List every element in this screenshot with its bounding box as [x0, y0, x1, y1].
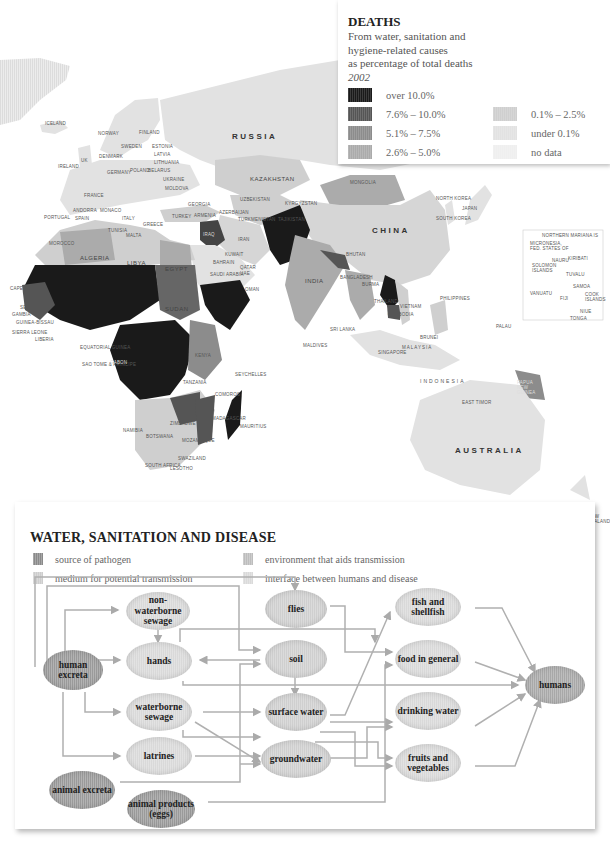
label-maldives: MALDIVES	[303, 343, 327, 348]
label-armenia: ARMENIA	[194, 213, 216, 218]
label-burma: BURMA	[362, 282, 379, 287]
water-sanitation-diagram: WATER, SANITATION AND DISEASE source of …	[15, 502, 595, 829]
legend-year: 2002	[348, 71, 548, 85]
legend-item-under-0-1: under 0.1%	[493, 126, 579, 140]
label-sudan: SUDAN	[165, 306, 189, 312]
label-georgia: GEORGIA	[188, 202, 210, 207]
legend-item-2-5: 2.6% – 5.0%	[348, 145, 440, 159]
label-saudi-arabia: SAUDI ARABIA	[210, 272, 244, 277]
label-tanzania: TANZANIA	[183, 380, 207, 385]
label-belarus: BELARUS	[148, 168, 170, 173]
legend-label: 7.6% – 10.0%	[386, 109, 446, 120]
inset-label: MICRONESIA, FED. STATES OF	[530, 241, 570, 251]
inset-label: FIJI	[560, 296, 568, 301]
label-uzbekistan: UZBEKISTAN	[240, 197, 270, 202]
label-kenya: KENYA	[195, 353, 211, 358]
label-east-timor: EAST TIMOR	[462, 400, 491, 405]
node-human-excreta: human excreta	[43, 650, 103, 690]
label-north-korea: NORTH KOREA	[436, 196, 471, 201]
label-russia: RUSSIA	[232, 132, 277, 141]
label-denmark: DENMARK	[99, 154, 123, 159]
inset-label: SAMOA	[573, 284, 590, 289]
node-flies: flies	[265, 590, 327, 628]
legend-item-0-2: 0.1% – 2.5%	[493, 107, 585, 121]
label-iceland: ICELAND	[45, 121, 66, 126]
label-cape-verde: CAPE VERDE	[10, 286, 41, 291]
legend-item-no-data: no data	[493, 145, 562, 159]
label-turkey: TURKEY	[172, 214, 191, 219]
label-italy: ITALY	[122, 216, 135, 221]
label-japan: JAPAN	[462, 206, 477, 211]
label-zimbabwe: ZIMBABWE	[170, 421, 196, 426]
legend-label: over 10.0%	[386, 90, 434, 101]
label-swaziland: SWAZILAND	[178, 456, 206, 461]
label-libya: LIBYA	[127, 260, 146, 266]
label-kyrgyzstan: KYRGYZSTAN	[285, 201, 317, 206]
label-iran: IRAN	[238, 237, 250, 242]
node-waterborne-sewage: waterborne sewage	[126, 693, 192, 731]
legend-swatch	[348, 88, 372, 102]
label-lithuania: LITHUANIA	[154, 160, 179, 165]
node-fruits-vegetables: fruits and vegetables	[395, 744, 461, 782]
legend-subtitle-line: From water, sanitation and	[348, 30, 548, 44]
label-gambia: GAMBIA	[12, 312, 31, 317]
label-qatar: QATAR	[240, 265, 256, 270]
node-drinking-water: drinking water	[395, 692, 461, 730]
label-south-korea: SOUTH KOREA	[436, 216, 471, 221]
inset-label: KIRIBATI	[568, 256, 588, 261]
legend-swatch	[348, 145, 372, 159]
label-ireland: IRELAND	[58, 164, 79, 169]
label-bhutan: BHUTAN	[346, 252, 365, 257]
label-france: FRANCE	[84, 193, 104, 198]
label-sri-lanka: SRI LANKA	[330, 327, 355, 332]
legend-label: no data	[531, 147, 562, 158]
label-cambodia: CAMBODIA	[388, 312, 414, 317]
legend-item-5-7: 5.1% – 7.5%	[348, 126, 440, 140]
node-non-waterborne-sewage: non-waterborne sewage	[126, 592, 190, 630]
legend-title: DEATHS	[348, 14, 401, 30]
legend-swatch	[493, 126, 517, 140]
label-kuwait: KUWAIT	[225, 252, 244, 257]
label-papua-new-guinea: PAPUA NEW GUINEA	[517, 380, 539, 395]
label-iraq: IRAQ	[203, 232, 215, 237]
label-andorra: ANDORRA	[73, 208, 97, 213]
legend-label: 5.1% – 7.5%	[386, 128, 440, 139]
inset-label: TUVALU	[566, 272, 585, 277]
label-sierra-leone: SIERRA LEONE	[12, 330, 47, 335]
label-azerbaijan: AZERBAIJAN	[219, 210, 249, 215]
legend-item-7-10: 7.6% – 10.0%	[348, 107, 446, 121]
node-food-general: food in general	[395, 640, 461, 678]
label-palau: PALAU	[496, 324, 511, 329]
legend-subtitle: From water, sanitation and hygiene-relat…	[348, 30, 548, 84]
label-uae: UAE	[240, 271, 250, 276]
label-greece: GREECE	[143, 222, 163, 227]
node-animal-excreta: animal excreta	[49, 771, 115, 809]
label-mongolia: MONGOLIA	[350, 180, 376, 185]
label-mauritius: MAURITIUS	[240, 424, 267, 429]
label-madagascar: MADAGASCAR	[212, 416, 246, 421]
label-seychelles: SEYCHELLES	[235, 372, 267, 377]
label-vietnam: VIETNAM	[400, 304, 421, 309]
inset-label: NORTHERN MARIANA IS	[542, 233, 598, 238]
legend-subtitle-line: as percentage of total deaths	[348, 57, 548, 71]
label-senegal: SENEGAL	[20, 305, 43, 310]
node-humans: humans	[525, 666, 585, 704]
label-moldova: MOLDOVA	[165, 186, 189, 191]
label-poland: POLAND	[130, 168, 150, 173]
node-groundwater: groundwater	[261, 740, 331, 778]
label-ukraine: UKRAINE	[163, 177, 184, 182]
label-germany: GERMANY	[107, 170, 131, 175]
inset-label: TONGA	[570, 316, 587, 321]
legend-label: under 0.1%	[531, 128, 579, 139]
label-philippines: PHILIPPINES	[440, 296, 470, 301]
legend-label: 0.1% – 2.5%	[531, 109, 585, 120]
label-indonesia: INDONESIA	[420, 378, 466, 384]
label-india: INDIA	[305, 278, 324, 284]
label-botswana: BOTSWANA	[146, 434, 173, 439]
label-brunei: BRUNEI	[420, 335, 438, 340]
label-sweden: SWEDEN	[121, 144, 142, 149]
label-singapore: SINGAPORE	[378, 350, 407, 355]
label-estonia: ESTONIA	[152, 144, 173, 149]
label-china: CHINA	[372, 226, 410, 235]
inset-label: VANUATU	[530, 291, 552, 296]
